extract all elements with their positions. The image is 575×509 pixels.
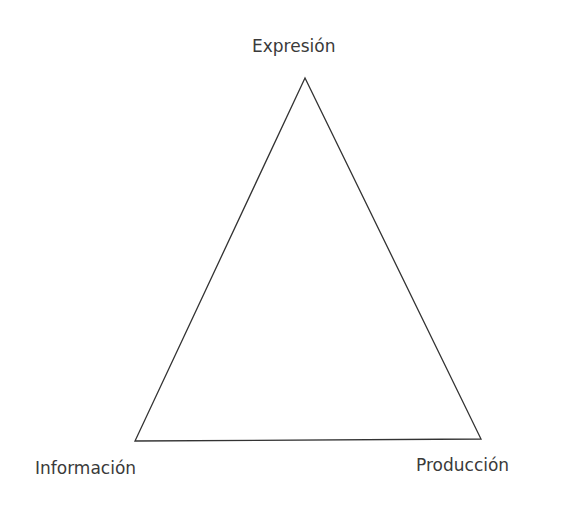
triangle-diagram (0, 0, 575, 509)
vertex-label-bottom-left: Información (35, 458, 136, 478)
vertex-label-bottom-right: Producción (416, 455, 509, 475)
triangle-shape (135, 78, 481, 441)
vertex-label-top: Expresión (252, 36, 335, 56)
